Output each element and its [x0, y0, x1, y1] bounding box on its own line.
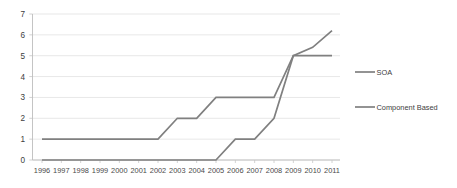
x-tick-label: 2003: [169, 166, 185, 175]
x-tick-label: 2008: [266, 166, 282, 175]
chart-page: 01234567 1996199719981999200020012002200…: [0, 0, 457, 188]
x-tick-label: 1996: [34, 166, 50, 175]
x-tick-label: 2011: [324, 166, 340, 175]
x-tick-label: 2007: [246, 166, 262, 175]
series-line-soa: [42, 31, 332, 139]
y-tick-label: 6: [20, 31, 25, 40]
x-axis-tick-labels: 1996199719981999200020012002200320042005…: [34, 160, 340, 175]
y-tick-label: 7: [20, 10, 25, 19]
y-tick-label: 3: [20, 93, 25, 102]
x-tick-label: 2004: [188, 166, 204, 175]
x-tick-label: 2000: [111, 166, 127, 175]
x-tick-label: 1998: [72, 166, 88, 175]
x-tick-label: 2005: [208, 166, 224, 175]
y-tick-label: 0: [20, 156, 25, 165]
line-chart: 01234567 1996199719981999200020012002200…: [0, 0, 457, 188]
x-tick-label: 2002: [150, 166, 166, 175]
y-axis-tick-labels: 01234567: [20, 10, 32, 165]
y-tick-label: 5: [20, 52, 25, 61]
y-tick-label: 2: [20, 114, 25, 123]
x-tick-label: 2009: [285, 166, 301, 175]
legend-label: SOA: [377, 68, 393, 77]
data-series: [42, 31, 332, 160]
axis-lines: [33, 14, 341, 160]
legend-label: Component Based: [377, 103, 438, 112]
y-tick-label: 4: [20, 73, 25, 82]
x-tick-label: 2006: [227, 166, 243, 175]
x-tick-label: 2001: [130, 166, 146, 175]
series-line-component-based: [42, 56, 332, 160]
x-tick-label: 1997: [53, 166, 69, 175]
chart-legend: SOAComponent Based: [355, 68, 438, 112]
x-tick-label: 1999: [92, 166, 108, 175]
y-tick-label: 1: [20, 135, 25, 144]
x-tick-label: 2010: [304, 166, 320, 175]
gridlines: [33, 14, 341, 160]
